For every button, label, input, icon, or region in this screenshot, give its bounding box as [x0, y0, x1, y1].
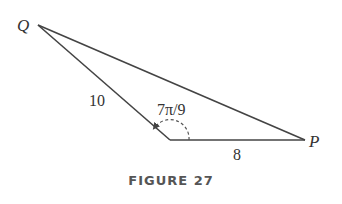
triangle-figure: Q P 10 8 7π/9 FIGURE 27 — [0, 0, 342, 204]
side-label-qr: 10 — [89, 92, 105, 109]
vertex-label-q: Q — [17, 16, 29, 35]
side-label-rp: 8 — [233, 146, 241, 163]
triangle — [38, 25, 305, 140]
vertex-label-p: P — [308, 132, 319, 151]
figure-caption: FIGURE 27 — [128, 173, 213, 188]
side-qp — [38, 25, 305, 140]
side-qr — [38, 25, 170, 140]
angle-label: 7π/9 — [157, 101, 186, 118]
angle-arc-icon — [155, 120, 189, 140]
